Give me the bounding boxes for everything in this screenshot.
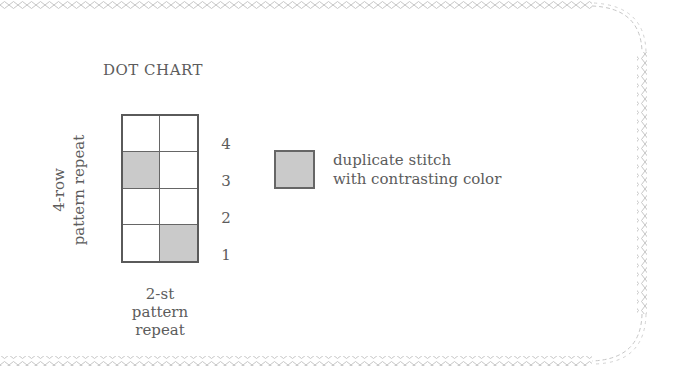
legend-line1: duplicate stitch (333, 151, 501, 170)
grid-cell-row1-col2-shaded (160, 225, 197, 261)
grid-cell-row3-col1-shaded (123, 152, 160, 188)
stitch-repeat-label-line1: 2-st (100, 285, 220, 303)
row-label-1: 1 (216, 246, 236, 264)
grid-cell-row1-col1 (123, 225, 160, 261)
row-label-3: 3 (216, 172, 236, 190)
chart-title: DOT CHART (103, 61, 203, 79)
grid-cell-row2-col1 (123, 189, 160, 225)
grid-cell-row4-col2 (160, 116, 197, 152)
row-repeat-label-line1: 4-row (49, 135, 69, 246)
legend-line2: with contrasting color (333, 170, 501, 189)
row-label-2: 2 (216, 209, 236, 227)
stitch-repeat-label-line2: pattern (100, 303, 220, 321)
legend-swatch-shaded (274, 150, 315, 189)
legend-description: duplicate stitch with contrasting color (333, 151, 501, 189)
stitch-repeat-label-line3: repeat (100, 321, 220, 339)
row-repeat-label-line2: pattern repeat (69, 135, 89, 246)
grid-cell-row3-col2 (160, 152, 197, 188)
row-label-4: 4 (216, 135, 236, 153)
grid-cell-row4-col1 (123, 116, 160, 152)
row-number-labels: 4 3 2 1 (216, 114, 236, 263)
grid-cell-row2-col2 (160, 189, 197, 225)
dot-chart-grid (121, 114, 199, 263)
row-repeat-label: 4-row pattern repeat (49, 135, 89, 246)
stitch-repeat-label: 2-st pattern repeat (100, 285, 220, 339)
